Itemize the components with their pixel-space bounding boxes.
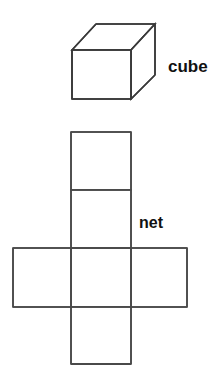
net-label: net: [139, 214, 163, 232]
net-square-column-4: [71, 307, 131, 364]
cube-front-face: [72, 50, 131, 99]
cube-label: cube: [168, 57, 208, 77]
net-square-column-1: [71, 132, 131, 190]
net-square-column-3: [71, 248, 131, 307]
net-drawing: [13, 132, 187, 364]
net-square-row-left: [13, 248, 71, 307]
figure-page: cube net: [0, 0, 219, 384]
cube-drawing: [72, 24, 155, 99]
net-square-row-right: [131, 248, 187, 307]
net-square-column-2: [71, 190, 131, 248]
